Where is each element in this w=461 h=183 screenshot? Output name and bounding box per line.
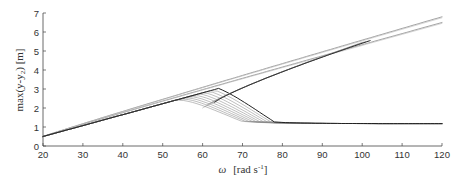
- x-tick-label: 90: [317, 149, 328, 160]
- y-tick-label: 6: [34, 27, 39, 38]
- frequency-response-chart: 2030405060708090100110120 01234567 ω [ra…: [0, 0, 461, 183]
- curve-family: [43, 17, 442, 137]
- x-tick-label: 50: [157, 149, 168, 160]
- y-tick-label: 4: [34, 65, 39, 76]
- y-tick-label: 3: [34, 84, 39, 95]
- y-tick-label: 7: [34, 8, 39, 19]
- y-tick-label: 0: [34, 141, 39, 152]
- axes: 2030405060708090100110120 01234567: [34, 8, 450, 161]
- x-axis-label: ω [rad s-1]: [219, 163, 268, 175]
- response-curve-fold: [43, 97, 442, 137]
- x-tick-label: 110: [395, 149, 410, 160]
- response-curve-fold: [43, 92, 442, 137]
- x-tick-label: 30: [78, 149, 89, 160]
- y-tick-label: 1: [34, 122, 39, 133]
- y-axis-label: max(y-y2) [m]: [13, 48, 27, 111]
- response-curve-fold: [43, 91, 442, 137]
- y-tick-label: 5: [34, 46, 39, 57]
- x-tick-label: 60: [197, 149, 208, 160]
- x-tick-label: 40: [118, 149, 129, 160]
- x-tick-label: 80: [277, 149, 288, 160]
- x-tick-label: 120: [434, 149, 450, 160]
- y-ticks: 01234567: [34, 8, 46, 152]
- x-ticks: 2030405060708090100110120: [38, 143, 450, 160]
- x-tick-label: 70: [237, 149, 248, 160]
- x-tick-label: 20: [38, 149, 49, 160]
- response-curve-fold: [43, 94, 442, 137]
- response-curve-upper: [43, 23, 442, 136]
- x-tick-label: 100: [354, 149, 370, 160]
- response-curve-fold: [43, 96, 442, 137]
- y-tick-label: 2: [34, 103, 39, 114]
